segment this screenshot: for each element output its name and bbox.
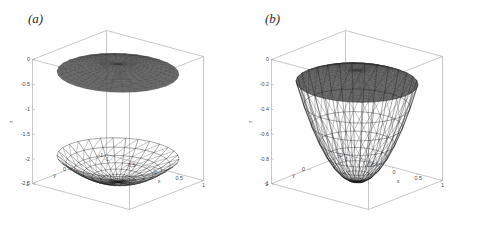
y-tick-label: 1: [265, 181, 268, 187]
x-tick-label: -1: [104, 156, 109, 162]
y-tick-label: 1: [26, 181, 29, 187]
panel-a: (a) 0-0.5-1-1.5-2-2.5-1-0.500.5110-1xyr: [0, 0, 238, 231]
panel-a-plot: 0-0.5-1-1.5-2-2.5-1-0.500.5110-1xyr: [0, 0, 238, 231]
x-axis-label: x: [158, 178, 161, 184]
z-tick-label: 0: [266, 56, 269, 62]
y-tick-label: -1: [98, 152, 103, 158]
x-tick-label: 1: [202, 182, 205, 188]
z-tick-label: -1: [25, 106, 30, 112]
x-tick-label: -0.5: [126, 162, 135, 168]
panel-a-label: (a): [28, 11, 43, 27]
panel-b-label: (b): [265, 11, 280, 27]
y-tick-label: 0: [302, 166, 305, 172]
x-tick-label: 0.5: [415, 175, 423, 181]
z-axis-label: r: [247, 120, 253, 122]
y-tick-label: -1: [337, 152, 342, 158]
panel-b-plot: 0-0.2-0.4-0.6-0.8-1-1-0.500.5110-1xyr: [239, 0, 477, 231]
y-axis-label: y: [292, 172, 295, 178]
z-axis-label: r: [8, 120, 14, 122]
x-axis-label: x: [397, 178, 400, 184]
figure-container: (a) 0-0.5-1-1.5-2-2.5-1-0.500.5110-1xyr …: [0, 0, 477, 231]
x-tick-label: 0: [393, 169, 396, 175]
z-tick-label: -2: [25, 156, 30, 162]
x-tick-label: 1: [441, 182, 444, 188]
z-tick-label: -0.4: [260, 106, 269, 112]
z-tick-label: -0.5: [21, 81, 30, 87]
x-tick-label: 0.5: [176, 175, 184, 181]
z-tick-label: 0: [27, 56, 30, 62]
y-tick-label: 0: [63, 166, 66, 172]
y-axis-label: y: [53, 172, 56, 178]
x-tick-label: -0.5: [365, 162, 374, 168]
z-tick-label: -0.2: [260, 81, 269, 87]
z-tick-label: -0.8: [260, 156, 269, 162]
z-tick-label: -1.5: [21, 131, 30, 137]
panel-b: (b) 0-0.2-0.4-0.6-0.8-1-1-0.500.5110-1xy…: [239, 0, 477, 231]
x-tick-label: 0: [154, 169, 157, 175]
z-tick-label: -0.6: [260, 131, 269, 137]
x-tick-label: -1: [343, 156, 348, 162]
